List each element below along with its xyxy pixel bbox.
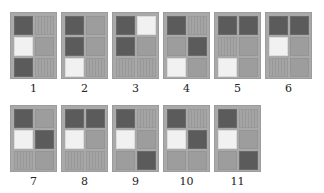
grid-cell <box>269 16 288 35</box>
tile-grid <box>61 12 108 79</box>
tile-panel-8: 8 <box>61 105 112 193</box>
grid-cell <box>14 16 33 35</box>
grid-cell <box>65 16 84 35</box>
grid-cell <box>167 16 186 35</box>
grid-cell <box>218 16 237 35</box>
grid-cell <box>239 109 258 128</box>
grid-cell <box>167 58 186 77</box>
grid-cell <box>14 151 33 170</box>
grid-cell <box>167 37 186 56</box>
grid-cell <box>137 37 156 56</box>
tile-label: 6 <box>265 82 312 95</box>
grid-cell <box>116 109 135 128</box>
grid-cell <box>14 37 33 56</box>
grid-cell <box>65 109 84 128</box>
grid-cell <box>65 58 84 77</box>
tile-grid <box>163 105 210 172</box>
tile-panel-4: 4 <box>163 12 214 104</box>
tile-grid <box>112 105 159 172</box>
grid-cell <box>86 16 105 35</box>
grid-cell <box>35 58 54 77</box>
grid-cell <box>137 109 156 128</box>
grid-cell <box>14 130 33 149</box>
tile-label: 2 <box>61 82 108 95</box>
grid-cell <box>14 109 33 128</box>
grid-cell <box>65 130 84 149</box>
grid-cell <box>116 58 135 77</box>
grid-cell <box>218 130 237 149</box>
grid-cell <box>137 16 156 35</box>
tile-panel-10: 10 <box>163 105 214 193</box>
grid-cell <box>269 58 288 77</box>
grid-cell <box>86 151 105 170</box>
tile-label: 4 <box>163 82 210 95</box>
grid-cell <box>290 58 309 77</box>
grid-cell <box>188 109 207 128</box>
tile-grid <box>214 12 261 79</box>
grid-cell <box>137 151 156 170</box>
grid-cell <box>116 151 135 170</box>
grid-cell <box>65 151 84 170</box>
tile-grid <box>265 12 312 79</box>
grid-cell <box>116 37 135 56</box>
grid-cell <box>86 37 105 56</box>
grid-cell <box>269 37 288 56</box>
grid-cell <box>86 58 105 77</box>
tile-grid <box>112 12 159 79</box>
tile-panel-3: 3 <box>112 12 163 104</box>
tile-grid <box>163 12 210 79</box>
tile-label: 10 <box>163 175 210 188</box>
tile-label: 5 <box>214 82 261 95</box>
grid-cell <box>188 58 207 77</box>
grid-cell <box>218 58 237 77</box>
grid-cell <box>35 130 54 149</box>
grid-cell <box>239 16 258 35</box>
tile-panel-9: 9 <box>112 105 163 193</box>
grid-cell <box>290 37 309 56</box>
grid-cell <box>167 151 186 170</box>
tile-panel-1: 1 <box>10 12 61 104</box>
tile-label: 3 <box>112 82 159 95</box>
grid-cell <box>137 130 156 149</box>
grid-cell <box>167 109 186 128</box>
grid-cell <box>188 151 207 170</box>
grid-cell <box>86 130 105 149</box>
grid-cell <box>188 37 207 56</box>
grid-cell <box>239 37 258 56</box>
tile-panel-2: 2 <box>61 12 112 104</box>
grid-cell <box>35 151 54 170</box>
grid-cell <box>239 130 258 149</box>
grid-cell <box>239 58 258 77</box>
grid-cell <box>188 130 207 149</box>
grid-cell <box>116 16 135 35</box>
grid-cell <box>14 58 33 77</box>
grid-cell <box>167 130 186 149</box>
grid-cell <box>116 130 135 149</box>
grid-cell <box>239 151 258 170</box>
grid-cell <box>35 109 54 128</box>
tile-label: 11 <box>214 175 261 188</box>
tile-panel-5: 5 <box>214 12 265 104</box>
grid-cell <box>218 109 237 128</box>
tile-panel-6: 6 <box>265 12 316 104</box>
tile-label: 1 <box>10 82 57 95</box>
tile-grid <box>214 105 261 172</box>
grid-cell <box>65 37 84 56</box>
grid-cell <box>218 151 237 170</box>
grid-cell <box>35 37 54 56</box>
grid-cell <box>137 58 156 77</box>
tile-label: 7 <box>10 175 57 188</box>
tile-grid <box>10 12 57 79</box>
tile-grid <box>10 105 57 172</box>
grid-cell <box>86 109 105 128</box>
grid-cell <box>218 37 237 56</box>
tile-panel-11: 11 <box>214 105 265 193</box>
tile-label: 8 <box>61 175 108 188</box>
tile-panel-7: 7 <box>10 105 61 193</box>
grid-cell <box>188 16 207 35</box>
grid-cell <box>35 16 54 35</box>
tile-grid <box>61 105 108 172</box>
tile-label: 9 <box>112 175 159 188</box>
grid-cell <box>290 16 309 35</box>
